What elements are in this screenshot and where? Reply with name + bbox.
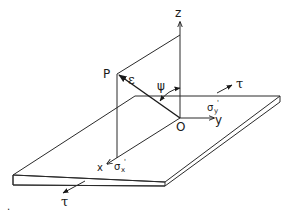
plate: [13, 96, 280, 186]
sigma-y-label: σ y ': [207, 99, 219, 115]
plate-front-bottom-edge: [13, 185, 165, 186]
stressed-plate-diagram: z P ε ψ y O x σ x ' σ y ' τ τ .: [0, 0, 289, 218]
svg-text:x: x: [121, 166, 125, 174]
z-axis-label: z: [175, 6, 181, 20]
shear-arrow-front: [63, 181, 85, 193]
x-axis-label: x: [97, 162, 103, 173]
origin-label: O: [176, 120, 185, 134]
plate-right-bottom-edge: [165, 102, 280, 186]
svg-text:σ: σ: [207, 102, 214, 113]
stray-dot: .: [7, 201, 10, 212]
x-axis: [107, 118, 180, 164]
sigma-x-label: σ x ': [114, 158, 126, 174]
svg-text:': ': [124, 158, 126, 166]
point-p-label: P: [103, 67, 110, 81]
y-axis-label: y: [215, 113, 222, 127]
svg-text:σ: σ: [114, 161, 121, 172]
psi-angle-label: ψ: [157, 79, 165, 93]
strain-label: ε: [128, 72, 135, 87]
shear-label-back: τ: [236, 76, 243, 91]
shear-arrow-back: [217, 85, 232, 93]
shear-label-front: τ: [61, 194, 68, 209]
svg-text:': ': [217, 99, 219, 107]
projection-line-top: [117, 35, 180, 74]
plate-front-face: [13, 175, 165, 186]
svg-text:y: y: [214, 107, 218, 115]
